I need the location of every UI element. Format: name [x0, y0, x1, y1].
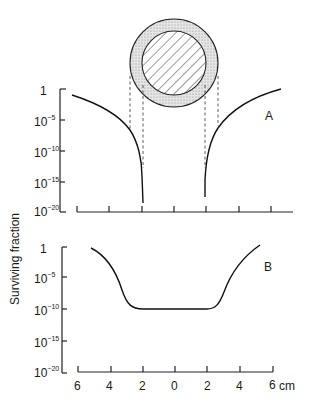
svg-text:4: 4: [106, 379, 113, 393]
panel-a-x-axis: [77, 206, 293, 212]
panel-a-ytick-1e-5: 10−5: [34, 114, 55, 129]
svg-text:6: 6: [74, 379, 81, 393]
svg-text:0: 0: [171, 379, 178, 393]
panel-b-label: B: [264, 260, 272, 274]
panel-a-ytick-1e-10: 10−10: [34, 145, 59, 160]
panel-b-ytick-1e-5: 10−5: [34, 271, 55, 286]
x-unit-label: cm: [279, 379, 295, 393]
inner-core: [142, 31, 206, 95]
panel-a-ytick-1: 1: [40, 84, 47, 98]
svg-text:2: 2: [139, 379, 146, 393]
panel-b-ytick-1e-10: 10−10: [34, 303, 59, 318]
panel-b-curve: [91, 245, 260, 309]
panel-b: 1 10−5 10−10 10−15 10−20 6 4 2 0 2 4 6 c…: [34, 242, 295, 393]
panel-b-ytick-1e-15: 10−15: [34, 335, 59, 350]
panel-b-y-axis: [62, 247, 67, 373]
panel-b-ytick-1: 1: [40, 242, 47, 256]
panel-b-x-tick-labels: 6 4 2 0 2 4 6 cm: [74, 378, 295, 393]
panel-b-x-axis: [78, 366, 273, 372]
panel-a-curve-right: [205, 89, 281, 197]
panel-a-y-axis: [60, 89, 66, 212]
svg-text:4: 4: [236, 379, 243, 393]
panel-a-ytick-1e-20: 10−20: [34, 204, 59, 219]
y-axis-label: Surviving fraction: [8, 213, 22, 305]
cross-section-diagram: [130, 19, 218, 168]
panel-a-ytick-1e-15: 10−15: [34, 176, 59, 191]
panel-b-ytick-1e-20: 10−20: [34, 365, 59, 380]
svg-text:2: 2: [204, 379, 211, 393]
panel-a-label: A: [265, 109, 273, 123]
panel-a-curve-left: [72, 95, 143, 203]
svg-text:6: 6: [269, 378, 276, 392]
figure-canvas: 1 10−5 10−10 10−15 10−20 A Surviving fra…: [0, 0, 313, 410]
